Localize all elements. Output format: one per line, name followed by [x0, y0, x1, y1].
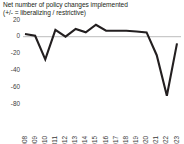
x-tick-label-2008: 2008 — [22, 136, 29, 144]
y-tick-label: -40 — [11, 67, 20, 73]
chart-title-line-2: (+/- = liberalizing / restrictive) — [3, 9, 181, 17]
plot-area — [23, 18, 181, 111]
y-tick-label: 0 — [16, 33, 20, 39]
chart-title-block: Net number of policy changes implemented… — [3, 1, 181, 17]
x-tick-label-2009: 2009 — [32, 136, 39, 144]
chart-title-line-1: Net number of policy changes implemented — [3, 1, 181, 9]
y-tick-label: -60 — [11, 84, 20, 90]
x-tick-label-2020: 2020 — [143, 136, 150, 144]
x-tick-label-2019: 2019 — [133, 136, 140, 144]
chart-figure: Net number of policy changes implemented… — [0, 0, 184, 144]
line-chart-svg — [23, 18, 181, 111]
x-tick-label-2013: 2013 — [72, 136, 79, 144]
y-tick-label: -20 — [11, 50, 20, 56]
x-tick-label-2011: 2011 — [52, 136, 59, 144]
x-tick-label-2016: 2016 — [103, 136, 110, 144]
data-series-line — [25, 25, 177, 96]
x-tick-label-2017: 2017 — [113, 136, 120, 144]
x-tick-label-2015: 2015 — [92, 136, 99, 144]
x-tick-label-2022: 2022 — [163, 136, 170, 144]
x-tick-label-2018: 2018 — [123, 136, 130, 144]
x-tick-label-2014: 2014 — [82, 136, 89, 144]
x-tick-label-2012: 2012 — [62, 136, 69, 144]
y-tick-label: -80 — [11, 101, 20, 107]
x-tick-label-2021: 2021 — [153, 136, 160, 144]
y-axis: 200-20-40-60-80 — [0, 18, 21, 113]
x-tick-label-2023: 2023 — [174, 136, 181, 144]
y-tick-label: 20 — [13, 17, 20, 23]
x-tick-label-2010: 2010 — [42, 136, 49, 144]
x-axis: 2008200920102011201220132014201520162017… — [23, 106, 181, 144]
